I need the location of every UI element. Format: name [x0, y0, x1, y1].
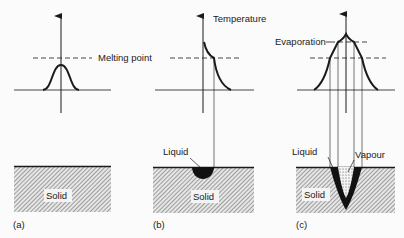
liquid-label-c: Liquid: [292, 146, 317, 157]
liquid-pointer-c: [328, 157, 333, 168]
panel-b: [153, 16, 254, 213]
temperature-curve-b: [204, 42, 231, 90]
liquid-pointer-b: [190, 158, 201, 168]
melting-evaporation-diagram: Melting point Solid (a) Temperature Liqu…: [0, 0, 404, 238]
solid-label-a: Solid: [46, 190, 67, 201]
caption-c: (c): [296, 219, 307, 230]
caption-b: (b): [153, 219, 165, 230]
temperature-axis-label: Temperature: [213, 13, 266, 24]
solid-label-c: Solid: [304, 189, 325, 200]
evaporation-label: Evaporation: [275, 36, 326, 47]
melting-point-label: Melting point: [98, 52, 152, 63]
vapour-label-c: Vapour: [355, 149, 385, 160]
liquid-label-b: Liquid: [163, 146, 188, 157]
caption-a: (a): [13, 219, 25, 230]
panel-a: [14, 16, 111, 212]
solid-label-b: Solid: [193, 191, 214, 202]
